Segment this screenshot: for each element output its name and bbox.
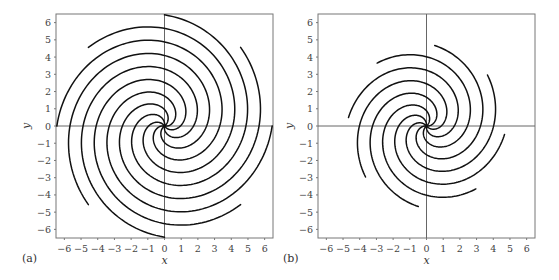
y-tick-label: 0	[307, 121, 313, 132]
y-tick-label: −6	[37, 224, 51, 235]
y-axis-label: y	[20, 122, 33, 130]
y-tick-label: −1	[37, 138, 51, 149]
x-axis-label: x	[161, 254, 168, 267]
x-tick-label: 3	[474, 243, 480, 254]
y-tick-label: 3	[45, 69, 51, 80]
y-tick-label: 3	[307, 69, 313, 80]
y-tick-label: 5	[45, 34, 51, 45]
x-tick-label: −1	[141, 243, 155, 254]
x-tick-label: 6	[524, 243, 530, 254]
y-tick-label: −6	[299, 224, 313, 235]
x-tick-label: −6	[57, 243, 71, 254]
x-tick-label: 4	[228, 243, 234, 254]
y-tick-label: −2	[37, 155, 51, 166]
y-tick-label: 5	[307, 34, 313, 45]
x-tick-label: −5	[336, 243, 350, 254]
y-tick-label: 1	[45, 103, 51, 114]
y-tick-label: 4	[45, 52, 51, 63]
y-tick-label: −1	[299, 138, 313, 149]
x-tick-label: 5	[245, 243, 251, 254]
x-tick-label: 2	[457, 243, 463, 254]
panel-label: (a)	[22, 252, 37, 265]
x-tick-label: −3	[369, 243, 383, 254]
x-tick-label: 5	[507, 243, 513, 254]
panel-a: −6−5−4−3−2−10123456−6−5−4−3−2−10123456xy…	[20, 14, 273, 267]
y-axis-label: y	[283, 122, 296, 130]
x-tick-label: 1	[440, 243, 446, 254]
x-tick-label: −1	[403, 243, 417, 254]
panel-b: −6−5−4−3−2−10123456−6−5−4−3−2−10123456xy…	[283, 14, 535, 267]
y-tick-label: −4	[37, 189, 51, 200]
y-tick-label: −2	[299, 155, 313, 166]
y-tick-label: −5	[299, 207, 313, 218]
y-tick-label: 2	[307, 86, 313, 97]
y-tick-label: 1	[307, 103, 313, 114]
x-tick-label: −6	[319, 243, 333, 254]
x-tick-label: −4	[353, 243, 367, 254]
y-tick-label: 0	[45, 121, 51, 132]
x-tick-label: 0	[161, 243, 167, 254]
panel-label: (b)	[283, 252, 299, 265]
y-tick-label: −3	[37, 172, 51, 183]
figure: −6−5−4−3−2−10123456−6−5−4−3−2−10123456xy…	[0, 0, 559, 280]
x-tick-label: −2	[386, 243, 400, 254]
y-tick-label: 2	[45, 86, 51, 97]
y-tick-label: −3	[299, 172, 313, 183]
y-tick-label: −5	[37, 207, 51, 218]
y-tick-label: 4	[307, 52, 313, 63]
x-tick-label: −2	[124, 243, 138, 254]
x-tick-label: 4	[490, 243, 496, 254]
x-axis-label: x	[423, 254, 430, 267]
x-tick-label: 0	[423, 243, 429, 254]
x-tick-label: −5	[74, 243, 88, 254]
trajectories	[348, 45, 504, 206]
y-tick-label: −4	[299, 189, 313, 200]
y-tick-label: 6	[45, 17, 51, 28]
x-tick-label: 3	[212, 243, 218, 254]
x-tick-label: −4	[91, 243, 105, 254]
x-tick-label: 1	[178, 243, 184, 254]
y-tick-label: 6	[307, 17, 313, 28]
x-tick-label: −3	[107, 243, 121, 254]
x-tick-label: 6	[262, 243, 268, 254]
x-tick-label: 2	[195, 243, 201, 254]
